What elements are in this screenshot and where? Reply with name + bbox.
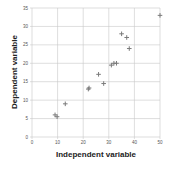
plus-marker-icon bbox=[86, 87, 91, 92]
x-tick-label: 20 bbox=[81, 140, 87, 145]
data-points bbox=[53, 13, 163, 119]
plus-marker-icon bbox=[114, 61, 119, 66]
x-tick-label: 10 bbox=[55, 140, 61, 145]
y-tick-label: 10 bbox=[23, 98, 29, 103]
y-tick-label: 20 bbox=[23, 61, 29, 66]
y-tick-label: 30 bbox=[23, 24, 29, 29]
plus-marker-icon bbox=[96, 72, 101, 77]
y-tick-label: 25 bbox=[23, 42, 29, 47]
x-tick-label: 50 bbox=[157, 140, 163, 145]
x-tick-label: 0 bbox=[31, 140, 34, 145]
plus-marker-icon bbox=[124, 35, 129, 40]
plus-marker-icon bbox=[119, 32, 124, 37]
scatter-chart: 05101520253035 01020304050 Independent v… bbox=[0, 0, 173, 169]
plus-marker-icon bbox=[158, 13, 163, 18]
y-tick-label: 0 bbox=[25, 135, 28, 140]
x-tick-label: 40 bbox=[132, 140, 138, 145]
plus-marker-icon bbox=[87, 86, 92, 91]
y-tick-label: 15 bbox=[23, 79, 29, 84]
x-axis-ticks: 01020304050 bbox=[31, 140, 163, 145]
y-tick-label: 5 bbox=[25, 116, 28, 121]
x-axis-title: Independent variable bbox=[56, 150, 137, 159]
y-tick-label: 35 bbox=[23, 6, 29, 11]
x-tick-label: 30 bbox=[106, 140, 112, 145]
plus-marker-icon bbox=[127, 46, 132, 51]
y-axis-ticks: 05101520253035 bbox=[23, 6, 29, 140]
plus-marker-icon bbox=[63, 102, 68, 107]
y-axis-title: Dependent variable bbox=[10, 35, 19, 109]
grid-lines bbox=[30, 8, 160, 139]
